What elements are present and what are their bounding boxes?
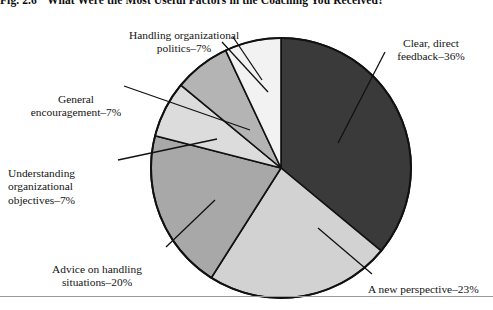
callout-label-text: A new perspective–23% xyxy=(368,283,479,295)
callout-clear-direct-feedback: Clear, direct feedback–36% xyxy=(372,24,490,64)
callout-label-text: Handling organizational politics–7% xyxy=(129,29,239,54)
source-note xyxy=(2,299,302,310)
figure-root: Fig. 2.6What Were the Most Useful Factor… xyxy=(0,0,493,310)
callout-label-text: Understanding organizational objectives–… xyxy=(8,167,75,205)
footer-divider xyxy=(0,296,493,297)
callout-understanding-organizational-objectives: Understanding organizational objectives–… xyxy=(8,154,126,207)
callout-advice-on-handling-situations: Advice on handling situations–20% xyxy=(28,250,166,290)
callout-label-text: Advice on handling situations–20% xyxy=(52,263,142,288)
callout-label-text: General encouragement–7% xyxy=(31,93,121,118)
callout-label-text: Clear, direct feedback–36% xyxy=(397,37,465,62)
callout-general-encouragement: General encouragement–7% xyxy=(14,80,138,120)
callout-a-new-perspective: A new perspective–23% xyxy=(368,270,493,296)
callout-handling-organizational-politics: Handling organizational politics–7% xyxy=(108,16,260,56)
